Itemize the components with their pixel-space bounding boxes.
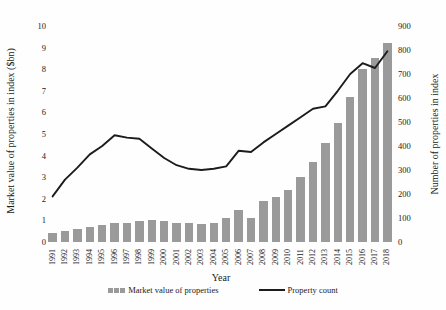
bar bbox=[48, 233, 57, 242]
right-tick-label: 900 bbox=[398, 21, 428, 31]
year-label: 2010 bbox=[283, 242, 293, 272]
year-label: 2013 bbox=[320, 242, 330, 272]
legend: Market value of properties Property coun… bbox=[0, 285, 446, 295]
chart-container: Market value of properties in index ($bn… bbox=[0, 0, 446, 310]
bar bbox=[383, 43, 392, 242]
left-tick-label: 0 bbox=[16, 237, 46, 247]
bar bbox=[259, 201, 268, 242]
x-axis-title: Year bbox=[48, 272, 394, 283]
bar bbox=[234, 210, 243, 242]
bar bbox=[98, 225, 107, 242]
bar-series-swatch-icon bbox=[108, 288, 125, 293]
year-label: 2017 bbox=[370, 242, 380, 272]
year-label: 2018 bbox=[382, 242, 392, 272]
year-label: 2007 bbox=[246, 242, 256, 272]
bar bbox=[309, 162, 318, 242]
left-tick-label: 3 bbox=[16, 172, 46, 182]
line-series-swatch-icon bbox=[259, 289, 285, 292]
bar bbox=[135, 221, 144, 242]
right-tick-label: 800 bbox=[398, 45, 428, 55]
bar bbox=[247, 218, 256, 242]
bar bbox=[86, 227, 95, 242]
right-tick-label: 100 bbox=[398, 213, 428, 223]
legend-item-market-value: Market value of properties bbox=[108, 285, 218, 295]
bar bbox=[123, 223, 132, 242]
year-label: 2001 bbox=[172, 242, 182, 272]
bar bbox=[222, 218, 231, 242]
year-label: 2014 bbox=[333, 242, 343, 272]
left-axis-title: Market value of properties in index ($bn… bbox=[5, 48, 16, 214]
bar bbox=[148, 220, 157, 242]
right-tick-label: 400 bbox=[398, 141, 428, 151]
bar bbox=[321, 143, 330, 242]
right-tick-label: 300 bbox=[398, 165, 428, 175]
year-label: 2000 bbox=[159, 242, 169, 272]
bar bbox=[160, 221, 169, 242]
left-tick-label: 5 bbox=[16, 129, 46, 139]
legend-item-property-count: Property count bbox=[259, 285, 338, 295]
year-label: 1991 bbox=[48, 242, 58, 272]
bar bbox=[284, 190, 293, 242]
left-tick-label: 9 bbox=[16, 43, 46, 53]
right-axis-title: Number of properties in index bbox=[429, 73, 440, 194]
bar bbox=[371, 58, 380, 242]
left-tick-label: 4 bbox=[16, 151, 46, 161]
bar bbox=[172, 223, 181, 242]
year-label: 2011 bbox=[296, 242, 306, 272]
left-tick-label: 1 bbox=[16, 215, 46, 225]
year-label: 1998 bbox=[134, 242, 144, 272]
left-tick-label: 7 bbox=[16, 86, 46, 96]
year-label: 1993 bbox=[72, 242, 82, 272]
right-tick-label: 700 bbox=[398, 69, 428, 79]
bar bbox=[185, 223, 194, 242]
left-tick-label: 2 bbox=[16, 194, 46, 204]
year-label: 2004 bbox=[209, 242, 219, 272]
year-label: 2002 bbox=[184, 242, 194, 272]
year-label: 2006 bbox=[234, 242, 244, 272]
year-label: 1997 bbox=[122, 242, 132, 272]
year-label: 2005 bbox=[221, 242, 231, 272]
year-label: 1996 bbox=[110, 242, 120, 272]
bar bbox=[73, 229, 82, 242]
year-label: 2003 bbox=[196, 242, 206, 272]
bar bbox=[296, 177, 305, 242]
right-tick-label: 0 bbox=[398, 237, 428, 247]
left-tick-label: 10 bbox=[16, 21, 46, 31]
year-label: 2015 bbox=[345, 242, 355, 272]
left-tick-label: 8 bbox=[16, 64, 46, 74]
bar bbox=[61, 231, 70, 242]
year-label: 1995 bbox=[97, 242, 107, 272]
legend-label-market-value: Market value of properties bbox=[128, 285, 218, 295]
bar bbox=[346, 97, 355, 242]
legend-label-property-count: Property count bbox=[288, 285, 338, 295]
bar bbox=[210, 223, 219, 242]
year-label: 2012 bbox=[308, 242, 318, 272]
right-tick-label: 500 bbox=[398, 117, 428, 127]
bar bbox=[358, 69, 367, 242]
year-label: 1992 bbox=[60, 242, 70, 272]
year-label: 1999 bbox=[147, 242, 157, 272]
bar bbox=[272, 197, 281, 242]
bar bbox=[334, 123, 343, 242]
bar bbox=[197, 224, 206, 242]
right-tick-label: 200 bbox=[398, 189, 428, 199]
year-label: 1994 bbox=[85, 242, 95, 272]
right-tick-label: 600 bbox=[398, 93, 428, 103]
year-label: 2016 bbox=[358, 242, 368, 272]
bar bbox=[110, 223, 119, 242]
year-label: 2009 bbox=[271, 242, 281, 272]
left-tick-label: 6 bbox=[16, 107, 46, 117]
year-label: 2008 bbox=[258, 242, 268, 272]
